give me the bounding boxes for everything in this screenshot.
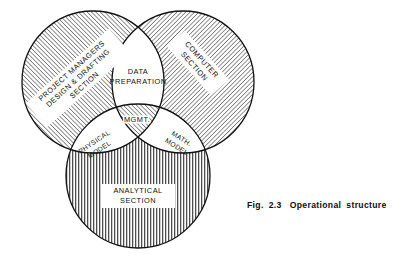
caption-title-word1: Operational — [290, 200, 342, 210]
label-mgmt-text: MGMT. — [124, 115, 150, 124]
figure-container: PROJECT MANAGERS DESIGN & DRAFTING SECTI… — [0, 0, 398, 265]
label-mgmt: MGMT. — [124, 115, 150, 124]
label-analytical-section: ANALYTICAL SECTION — [101, 184, 175, 208]
caption-number: 2.3 — [269, 200, 282, 210]
caption-prefix: Fig. — [247, 200, 264, 210]
figure-caption: Fig.2.3Operationalstructure — [247, 200, 397, 210]
venn-diagram: PROJECT MANAGERS DESIGN & DRAFTING SECTI… — [0, 0, 398, 265]
label-analytical-section-line1: ANALYTICAL — [113, 186, 162, 195]
label-data-preparation-line1: DATA — [128, 67, 148, 76]
label-analytical-section-line2: SECTION — [120, 196, 156, 205]
caption-title-word2: structure — [346, 200, 386, 210]
label-data-preparation-line2: PREPARATION — [110, 77, 167, 86]
